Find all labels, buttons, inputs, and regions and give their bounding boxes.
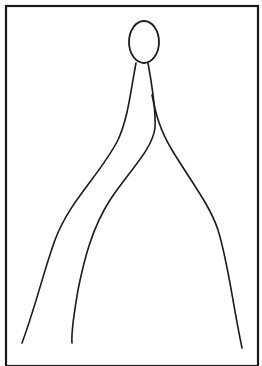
head-oval xyxy=(129,21,159,63)
right-stroke xyxy=(152,95,242,348)
left-stroke xyxy=(22,63,136,343)
sketch-svg xyxy=(0,0,262,366)
body-strokes xyxy=(22,63,242,348)
drawing-frame xyxy=(6,6,258,366)
drawing-canvas: Hand-drawn line sketch inside a rectangu… xyxy=(0,0,262,366)
middle-stroke xyxy=(72,63,155,343)
